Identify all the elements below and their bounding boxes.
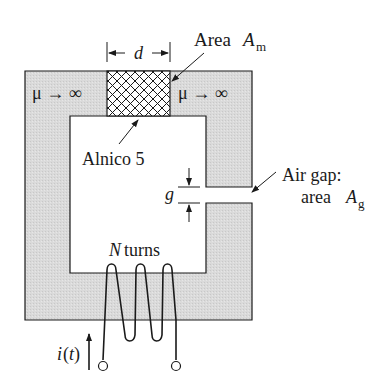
- alnico-label: Alnico 5: [82, 149, 145, 169]
- terminal-right: [172, 362, 181, 371]
- mu-left-label: μ → ∞: [32, 83, 82, 103]
- air-gap-label-area: area: [301, 187, 331, 207]
- area-m-symbol: A: [241, 29, 255, 50]
- air-gap-label-line1: Air gap:: [282, 165, 341, 185]
- current-t-label: (t): [63, 344, 80, 365]
- gap-dimension: [178, 168, 200, 222]
- gap-label: g: [165, 184, 174, 204]
- coil-n-label: N: [108, 240, 122, 260]
- area-m-prefix: Area: [194, 29, 231, 50]
- air-gap-symbol: A: [345, 187, 358, 207]
- magnetic-circuit-diagram: d Area A m μ → ∞ μ → ∞ Alnico 5 g Air ga…: [0, 0, 381, 390]
- terminal-left: [99, 362, 108, 371]
- mu-right-label: μ → ∞: [178, 83, 228, 103]
- coil-turns-label: turns: [124, 240, 160, 260]
- alnico-magnet: [107, 71, 170, 116]
- area-m-sub: m: [256, 39, 266, 54]
- air-gap-sub: g: [358, 196, 365, 211]
- air-gap-arrow: [252, 172, 276, 192]
- alnico-arrow: [119, 120, 138, 144]
- d-label: d: [134, 43, 144, 63]
- current-i-label: i: [57, 344, 62, 364]
